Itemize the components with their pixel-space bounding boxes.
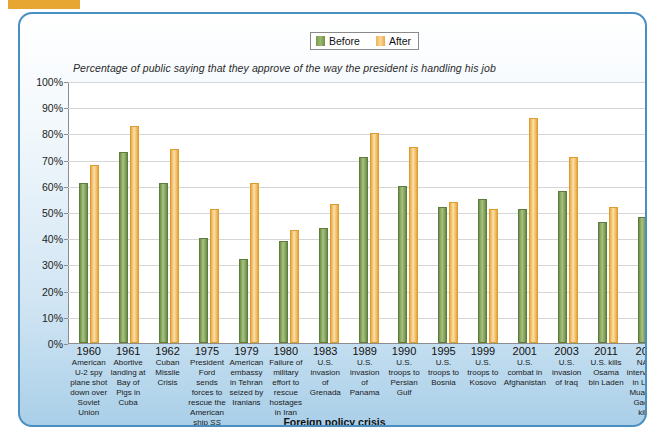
bar-group xyxy=(389,82,429,343)
x-axis-categories: 1960American U-2 spy plane shot down ove… xyxy=(69,346,647,427)
x-axis-category: 1990U.S. troops to Persian Gulf xyxy=(384,346,423,427)
bar-after[interactable] xyxy=(170,149,179,343)
x-axis-category-description: American embassy in Tehran seized by Ira… xyxy=(228,358,265,408)
x-axis-category: 1960American U-2 spy plane shot down ove… xyxy=(69,346,108,427)
x-axis-category: 2001U.S. combat in Afghanistan xyxy=(503,346,547,427)
bar-after[interactable] xyxy=(130,126,139,343)
bar-after[interactable] xyxy=(449,202,458,343)
bar-after[interactable] xyxy=(370,133,379,343)
bar-group xyxy=(428,82,468,343)
bar-group xyxy=(229,82,269,343)
bar-after[interactable] xyxy=(409,147,418,344)
x-axis-category-year: 1989 xyxy=(346,346,383,357)
bar-after[interactable] xyxy=(290,230,299,343)
x-axis-category-year: 2011 xyxy=(587,346,624,357)
bar-group xyxy=(149,82,189,343)
bar-before[interactable] xyxy=(159,183,168,343)
x-axis-category: 1999U.S. troops to Kosovo xyxy=(463,346,502,427)
y-axis-tick-mark xyxy=(64,318,68,319)
x-axis-category: 1989U.S. invasion of Panama xyxy=(345,346,384,427)
x-axis-category: 2011U.S. kills Osama bin Laden xyxy=(586,346,625,427)
legend-item-before[interactable]: Before xyxy=(316,35,360,47)
bar-before[interactable] xyxy=(478,199,487,343)
bar-before[interactable] xyxy=(319,228,328,343)
bar-group xyxy=(269,82,309,343)
legend-label-before: Before xyxy=(329,35,360,47)
x-axis-category-description: U.S. combat in Afghanistan xyxy=(504,358,546,388)
y-axis-tick-mark xyxy=(64,187,68,188)
bar-group xyxy=(69,82,109,343)
bar-before[interactable] xyxy=(79,183,88,343)
bar-after[interactable] xyxy=(569,157,578,343)
x-axis-category: 2003U.S. invasion of Iraq xyxy=(547,346,586,427)
x-axis-category-year: 1975 xyxy=(188,346,225,357)
chart-panel: Before After Percentage of public saying… xyxy=(18,12,647,427)
chart-subtitle: Percentage of public saying that they ap… xyxy=(73,62,496,74)
x-axis-category-year: 1961 xyxy=(109,346,146,357)
y-axis-tick-mark xyxy=(64,213,68,214)
legend-item-after[interactable]: After xyxy=(376,35,411,47)
y-axis-tick-mark xyxy=(64,239,68,240)
bar-group xyxy=(189,82,229,343)
bar-after[interactable] xyxy=(529,118,538,343)
bar-before[interactable] xyxy=(119,152,128,343)
x-axis-category-description: U.S. invasion of Iraq xyxy=(548,358,585,388)
bar-before[interactable] xyxy=(638,217,647,343)
x-axis-category-description: American U-2 spy plane shot down over So… xyxy=(70,358,107,418)
x-axis-category: 1979American embassy in Tehran seized by… xyxy=(227,346,266,427)
y-axis-tick-mark xyxy=(64,161,68,162)
bar-group xyxy=(349,82,389,343)
x-axis-category: 1962Cuban Missile Crisis xyxy=(148,346,187,427)
bar-after[interactable] xyxy=(330,204,339,343)
x-axis-category: 1983U.S. invasion of Grenada xyxy=(306,346,345,427)
x-axis-category-description: U.S. invasion of Grenada xyxy=(307,358,344,398)
x-axis-category: 1961Abortive landing at Bay of Pigs in C… xyxy=(108,346,147,427)
x-axis-category-year: 2003 xyxy=(548,346,585,357)
x-axis-category-description: NATO intervention in Libya; Muammar Gadd… xyxy=(627,358,647,418)
x-axis-category: 1980Failure of military effort to rescue… xyxy=(266,346,305,427)
bar-before[interactable] xyxy=(359,157,368,343)
legend-swatch-before-icon xyxy=(316,36,325,46)
bar-after[interactable] xyxy=(609,207,618,343)
y-axis-tick-mark xyxy=(64,344,68,345)
bar-before[interactable] xyxy=(558,191,567,343)
bar-after[interactable] xyxy=(210,209,219,343)
bar-series-container xyxy=(69,82,647,343)
x-axis-category-description: Abortive landing at Bay of Pigs in Cuba xyxy=(109,358,146,408)
bar-after[interactable] xyxy=(250,183,259,343)
x-axis-category-year: 1999 xyxy=(464,346,501,357)
bar-group xyxy=(109,82,149,343)
legend-label-after: After xyxy=(389,35,411,47)
x-axis-title: Foreign policy crisis xyxy=(20,416,647,427)
x-axis-category-description: Cuban Missile Crisis xyxy=(149,358,186,388)
x-axis-category-description: U.S. kills Osama bin Laden xyxy=(587,358,624,388)
bar-group xyxy=(548,82,588,343)
bar-before[interactable] xyxy=(199,238,208,343)
bar-group xyxy=(628,82,647,343)
bar-before[interactable] xyxy=(438,207,447,343)
x-axis-category: 2011NATO intervention in Libya; Muammar … xyxy=(626,346,647,427)
chart-legend: Before After xyxy=(310,32,419,50)
bar-before[interactable] xyxy=(398,186,407,343)
y-axis-tick-mark xyxy=(64,265,68,266)
y-axis-tick-mark xyxy=(64,108,68,109)
legend-swatch-after-icon xyxy=(376,36,385,46)
x-axis-category-year: 1990 xyxy=(385,346,422,357)
x-axis-category-description: Failure of military effort to rescue hos… xyxy=(267,358,304,418)
bar-before[interactable] xyxy=(598,222,607,343)
x-axis-category: 1975President Ford sends forces to rescu… xyxy=(187,346,226,427)
bar-before[interactable] xyxy=(518,209,527,343)
bar-after[interactable] xyxy=(489,209,498,343)
x-axis-category-description: U.S. troops to Bosnia xyxy=(425,358,462,388)
x-axis-category-year: 1983 xyxy=(307,346,344,357)
bar-before[interactable] xyxy=(239,259,248,343)
x-axis-category-year: 1995 xyxy=(425,346,462,357)
bar-before[interactable] xyxy=(279,241,288,343)
header-badge xyxy=(8,0,80,9)
y-axis-tick-mark xyxy=(64,82,68,83)
bar-after[interactable] xyxy=(90,165,99,343)
x-axis-category-year: 1980 xyxy=(267,346,304,357)
x-axis-category-year: 2011 xyxy=(627,346,647,357)
x-axis-category: 1995U.S. troops to Bosnia xyxy=(424,346,463,427)
x-axis-category-description: U.S. troops to Persian Gulf xyxy=(385,358,422,398)
